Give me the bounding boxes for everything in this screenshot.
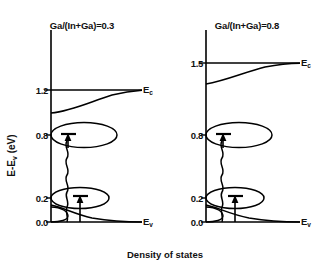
conduction-band-tail	[51, 90, 142, 113]
panel-plot-right	[165, 0, 329, 272]
band-diagram-figure: Ga/(In+Ga)=0.3 1.2 0.8 0.2 0.0 Ec Ev	[0, 0, 329, 272]
x-axis-title: Density of states	[95, 249, 235, 260]
deep-defect-band-ellipse	[51, 123, 117, 148]
y-axis-title: E-Ev (eV)	[6, 116, 17, 196]
panel-ga-0-8: Ga/(In+Ga)=0.8 1.5 0.8 0.2 0.0 Ec Ev	[165, 0, 329, 272]
deep-defect-band-ellipse	[206, 123, 272, 148]
panel-ga-0-3: Ga/(In+Ga)=0.3 1.2 0.8 0.2 0.0 Ec Ev	[0, 0, 164, 272]
conduction-band-tail	[206, 63, 300, 84]
panel-plot-left	[0, 0, 164, 272]
